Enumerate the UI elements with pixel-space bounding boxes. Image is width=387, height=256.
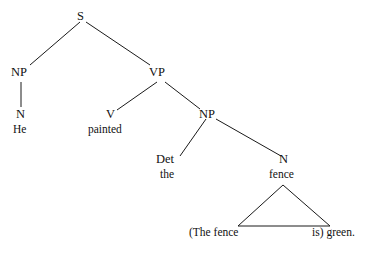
- node-n-object: N: [279, 153, 288, 166]
- terminal-the: the: [160, 169, 174, 181]
- node-det: Det: [156, 153, 174, 166]
- terminal-he: He: [13, 124, 26, 136]
- terminal-painted: painted: [88, 124, 122, 136]
- gloss-right: is) green.: [312, 227, 355, 239]
- tree-edges-layer: [0, 0, 387, 256]
- edge-vp-to-v: [117, 82, 157, 110]
- gloss-left: (The fence: [189, 227, 238, 239]
- node-np-subject: NP: [11, 66, 27, 79]
- edge-s-to-vp: [86, 22, 150, 65]
- syntax-tree-figure: S NP VP N He V painted NP Det the N fenc…: [0, 0, 387, 256]
- node-vp: VP: [149, 66, 165, 79]
- ellipsis-triangle: [238, 185, 330, 226]
- terminal-fence: fence: [269, 169, 294, 181]
- edge-np-object-to-det: [180, 119, 206, 156]
- node-n-subject: N: [16, 108, 25, 121]
- node-v: V: [106, 108, 115, 121]
- edge-vp-to-np-object: [165, 82, 200, 109]
- edge-np-object-to-n-object: [216, 119, 281, 156]
- node-s: S: [77, 10, 84, 23]
- edge-s-to-np-subject: [30, 22, 80, 65]
- node-np-object: NP: [199, 108, 215, 121]
